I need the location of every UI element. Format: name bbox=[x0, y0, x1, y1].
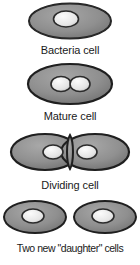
daughter-cells-label: Two new "daughter" cells bbox=[0, 242, 140, 255]
daughter-cell-left-nucleoid bbox=[22, 209, 44, 223]
daughter-cell-right bbox=[74, 201, 136, 233]
bacteria-cell-nucleoid bbox=[54, 11, 79, 27]
mature-cell-label: Mature cell bbox=[0, 110, 140, 123]
bacteria-cell-label: Bacteria cell bbox=[0, 44, 140, 57]
stage-daughter-cells: Two new "daughter" cells bbox=[0, 196, 140, 255]
stage-bacteria-cell: Bacteria cell bbox=[0, 0, 140, 57]
stage-mature-cell: Mature cell bbox=[0, 60, 140, 123]
dividing-cell-nucleoid-left bbox=[43, 145, 63, 159]
mature-cell-figure bbox=[0, 60, 140, 108]
dividing-cell-nucleoid-right bbox=[77, 145, 97, 159]
mature-cell-nucleoid-right bbox=[70, 77, 90, 92]
binary-fission-diagram: Bacteria cell bbox=[0, 0, 140, 265]
dividing-cell-figure bbox=[0, 126, 140, 178]
bacteria-cell-figure bbox=[0, 0, 140, 42]
dividing-cell-label: Dividing cell bbox=[0, 179, 140, 192]
daughter-cell-left bbox=[4, 201, 66, 233]
daughter-cells-figure bbox=[0, 196, 140, 240]
dividing-cell-septum bbox=[67, 135, 73, 169]
daughter-cell-right-nucleoid bbox=[92, 209, 114, 223]
mature-cell-nucleoid-left bbox=[51, 77, 71, 92]
stage-dividing-cell: Dividing cell bbox=[0, 126, 140, 192]
